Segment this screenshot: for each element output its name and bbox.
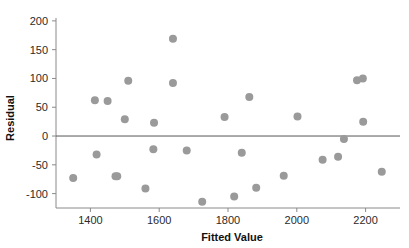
x-axis-title: Fitted Value	[201, 231, 263, 243]
data-point	[359, 74, 367, 82]
data-point	[334, 153, 342, 161]
data-point	[113, 172, 121, 180]
data-point	[230, 192, 238, 200]
data-point	[121, 115, 129, 123]
data-point	[149, 145, 157, 153]
y-axis-tick-marks	[52, 21, 56, 194]
x-tick-label: 1400	[78, 214, 102, 226]
plot-canvas: 200150100500-50-100 14001600180020002200…	[0, 0, 409, 248]
data-point	[169, 79, 177, 87]
data-point	[93, 150, 101, 158]
x-tick-label: 1800	[216, 214, 240, 226]
y-tick-label: 50	[36, 101, 48, 113]
x-tick-label: 2200	[353, 214, 377, 226]
data-point	[104, 97, 112, 105]
x-tick-label: 2000	[285, 214, 309, 226]
y-tick-label: 0	[42, 130, 48, 142]
y-tick-label: -100	[26, 188, 48, 200]
y-axis-title: Residual	[4, 95, 16, 141]
data-point	[378, 168, 386, 176]
data-point	[150, 119, 158, 127]
x-axis-tick-marks	[90, 208, 365, 212]
residual-scatter-figure: 200150100500-50-100 14001600180020002200…	[0, 0, 409, 248]
data-point	[169, 35, 177, 43]
data-point	[280, 172, 288, 180]
y-tick-label: -50	[32, 159, 48, 171]
axis-frame	[56, 18, 400, 208]
data-point	[245, 93, 253, 101]
y-tick-label: 100	[30, 72, 48, 84]
data-point	[183, 146, 191, 154]
data-point	[238, 149, 246, 157]
data-point	[252, 184, 260, 192]
data-point	[340, 135, 348, 143]
data-point	[141, 184, 149, 192]
y-tick-label: 150	[30, 44, 48, 56]
data-point	[69, 174, 77, 182]
data-point	[221, 113, 229, 121]
data-point	[198, 198, 206, 206]
y-axis-tick-labels: 200150100500-50-100	[26, 15, 48, 200]
data-point	[293, 112, 301, 120]
data-point	[91, 96, 99, 104]
data-point	[319, 156, 327, 164]
x-tick-label: 1600	[147, 214, 171, 226]
x-axis-tick-labels: 14001600180020002200	[78, 214, 378, 226]
data-point	[124, 77, 132, 85]
data-point-group	[69, 35, 386, 206]
data-point	[359, 118, 367, 126]
y-tick-label: 200	[30, 15, 48, 27]
